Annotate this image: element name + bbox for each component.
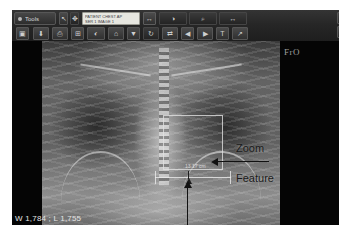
markup-caliper-arrow-icon xyxy=(187,187,188,225)
rotate-icon: ↻ xyxy=(144,28,158,39)
toolbar-button-measure[interactable]: ↔ xyxy=(219,12,247,25)
dicom-viewer-window: Tools PATIENT CHEST AP SER 1 IMAGE 1 ↔ ↖… xyxy=(12,10,339,225)
toolbar-button-next[interactable]: ▶ xyxy=(197,27,213,40)
flip-icon: ⇄ xyxy=(163,28,177,39)
print-icon: ⎙ xyxy=(53,28,67,39)
orientation-marker: FrO xyxy=(284,47,300,57)
toolbar-button-home[interactable]: ⌂ xyxy=(108,27,124,40)
toolbar-button-window-level[interactable]: ◑ xyxy=(159,12,187,25)
crosshair-icon: ⌖ xyxy=(338,13,339,23)
invert-icon: ◐ xyxy=(88,28,104,39)
text-icon: T xyxy=(217,28,228,39)
caliper-endpoint-end[interactable] xyxy=(230,171,231,184)
toolbar-button-save[interactable]: ⬇ xyxy=(33,27,49,40)
toolbar-button-list[interactable]: ≡ xyxy=(337,26,339,38)
arrow-tool-icon: ↗ xyxy=(233,28,247,39)
patient-info-field[interactable]: PATIENT CHEST AP SER 1 IMAGE 1 xyxy=(82,12,140,25)
toolbar-button-pan[interactable]: ✥ xyxy=(70,12,79,25)
window-level-readout: W 1,784 ; L 1,755 xyxy=(15,214,81,223)
zoom-feature-arrow-icon xyxy=(217,161,269,162)
toolbar-row-primary: Tools PATIENT CHEST AP SER 1 IMAGE 1 ↔ ↖… xyxy=(12,11,339,26)
patient-info-line-2: SER 1 IMAGE 1 xyxy=(85,19,138,24)
caliper-line xyxy=(155,177,231,178)
toolbar-button-flip[interactable]: ⇄ xyxy=(162,27,178,40)
tools-menu-button[interactable]: Tools xyxy=(14,12,56,25)
toolbar-button-arrow-tool[interactable]: ↗ xyxy=(232,27,248,40)
list-icon: ≡ xyxy=(338,27,339,37)
toolbar-button-more[interactable]: ▼ xyxy=(127,27,140,40)
save-icon: ⬇ xyxy=(34,28,48,39)
markup-caliper[interactable]: 13.17 cm xyxy=(155,169,231,185)
toolbar-button-crosshair[interactable]: ⌖ xyxy=(337,12,339,24)
annotation-zoom-label: Zoom xyxy=(236,142,264,154)
measure-icon: ↔ xyxy=(220,13,246,24)
menu-dot-icon xyxy=(18,17,22,21)
open-icon: ▣ xyxy=(17,28,28,39)
toolbar-button-prev[interactable]: ◀ xyxy=(181,27,194,40)
caliper-endpoint-start[interactable] xyxy=(155,171,156,184)
toolbar-button-layout[interactable]: ⊞ xyxy=(71,27,84,40)
caliper-measurement-label: 13.17 cm xyxy=(185,163,206,169)
toolbar: Tools PATIENT CHEST AP SER 1 IMAGE 1 ↔ ↖… xyxy=(12,10,339,41)
annotation-feature-label: Feature xyxy=(236,172,274,184)
image-viewport[interactable]: FrO 13.17 cm Zoom Feature Markup Caliper… xyxy=(12,41,339,225)
window-level-icon: ◑ xyxy=(160,13,186,24)
chevron-down-icon: ▼ xyxy=(128,28,139,39)
home-icon: ⌂ xyxy=(109,28,123,39)
toolbar-button-open[interactable]: ▣ xyxy=(16,27,29,40)
toolbar-button-print[interactable]: ⎙ xyxy=(52,27,68,40)
toolbar-row-secondary: ▣ ⬇ ⎙ ⊞ ◐ ⌂ ▼ ↻ ⇄ ◀ ▶ T xyxy=(12,26,339,41)
list-icon: ↔ xyxy=(144,13,155,24)
pan-icon: ✥ xyxy=(71,13,78,24)
patient-list-button[interactable]: ↔ xyxy=(143,12,156,25)
prev-icon: ◀ xyxy=(182,28,193,39)
cursor-icon: ↖ xyxy=(60,13,67,24)
toolbar-button-rotate[interactable]: ↻ xyxy=(143,27,159,40)
toolbar-button-invert[interactable]: ◐ xyxy=(87,27,105,40)
toolbar-button-zoom[interactable]: ⌕ xyxy=(189,12,217,25)
toolbar-button-cursor[interactable]: ↖ xyxy=(59,12,68,25)
chest-xray-image[interactable] xyxy=(42,41,280,225)
tools-menu-label: Tools xyxy=(25,14,53,25)
zoom-icon: ⌕ xyxy=(190,13,216,24)
layout-icon: ⊞ xyxy=(72,28,83,39)
toolbar-button-text[interactable]: T xyxy=(216,27,229,40)
next-icon: ▶ xyxy=(198,28,212,39)
